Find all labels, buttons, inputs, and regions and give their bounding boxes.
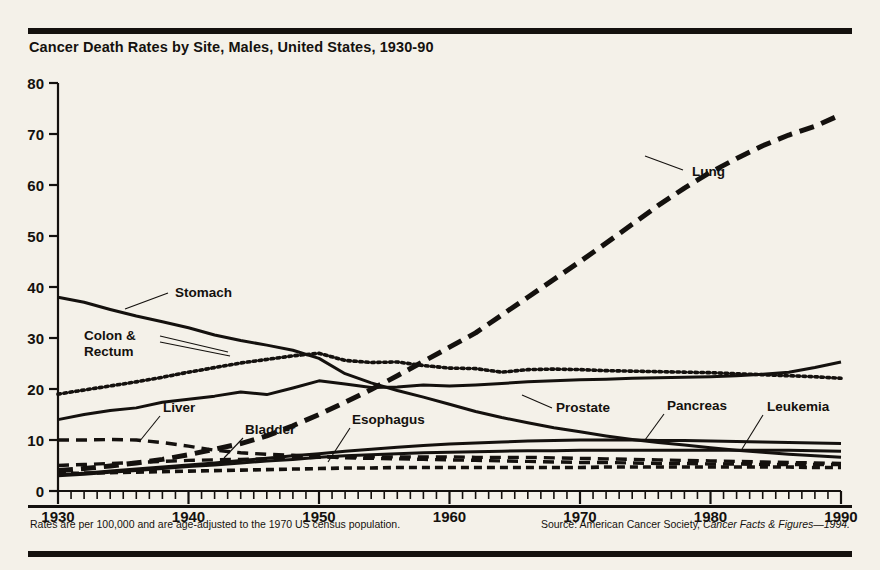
rates-footnote: Rates are per 100,000 and are age-adjust…: [30, 518, 400, 530]
leader-line-liver: [139, 416, 160, 442]
y-tick-label: 10: [27, 432, 44, 449]
source-publication: Cancer Facts & Figures—1994.: [703, 518, 850, 530]
plot-area: 0102030405060708019301940195019601970198…: [0, 0, 880, 570]
series-label-bladder: Bladder: [245, 422, 296, 437]
leader-line-lung: [645, 156, 683, 170]
bottom-rule: [28, 551, 852, 557]
series-label-prostate: Prostate: [556, 400, 611, 415]
series-label-esophagus: Esophagus: [352, 412, 425, 427]
source-prefix: Source: American Cancer Society,: [541, 518, 703, 530]
x-tick-label: 1960: [433, 508, 466, 525]
middle-rule: [28, 505, 852, 508]
y-tick-label: 40: [27, 279, 44, 296]
leader-line-pancreas: [645, 414, 664, 440]
y-tick-label: 70: [27, 126, 44, 143]
series-label-pancreas: Pancreas: [667, 398, 727, 413]
series-label-colon-rectum-line1: Colon &: [84, 328, 136, 343]
series-label-lung: Lung: [692, 164, 725, 179]
y-tick-label: 60: [27, 177, 44, 194]
series-label-stomach: Stomach: [175, 285, 232, 300]
source-footnote: Source: American Cancer Society, Cancer …: [541, 518, 850, 530]
chart-svg: 0102030405060708019301940195019601970198…: [0, 0, 880, 570]
series-label-leukemia: Leukemia: [767, 399, 830, 414]
leader-line-prostate: [522, 395, 552, 408]
y-tick-label: 0: [36, 483, 44, 500]
series-line-colon-rectum: [58, 353, 841, 394]
y-tick-label: 30: [27, 330, 44, 347]
series-label-liver: Liver: [163, 400, 196, 415]
chart-page: Cancer Death Rates by Site, Males, Unite…: [0, 0, 880, 570]
y-tick-label: 80: [27, 75, 44, 92]
leader-line-stomach: [125, 293, 168, 309]
y-tick-label: 50: [27, 228, 44, 245]
y-tick-label: 20: [27, 381, 44, 398]
leader-line-leukemia: [742, 415, 763, 449]
series-label-colon-rectum-line2: Rectum: [84, 344, 134, 359]
